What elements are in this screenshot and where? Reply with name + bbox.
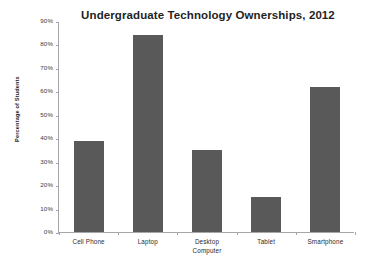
y-axis-tick-label: 90%	[40, 17, 53, 24]
y-axis-tick-label: 0%	[44, 228, 53, 235]
category-label-line: Cell Phone	[59, 238, 118, 247]
x-axis-category-label: Cell Phone	[59, 238, 118, 247]
x-axis-tick-mark	[296, 232, 297, 235]
y-axis-tick-label: 10%	[40, 205, 53, 212]
y-axis-tick-label: 80%	[40, 40, 53, 47]
y-axis-tick-label: 40%	[40, 134, 53, 141]
category-label-line: Desktop	[177, 238, 236, 247]
plot-area: 90%80%70%60%50%40%30%20%10%0% Cell Phone…	[58, 22, 354, 233]
bar[interactable]	[310, 87, 340, 232]
chart-title: Undergraduate Technology Ownerships, 201…	[58, 9, 358, 21]
x-axis-category-label: Laptop	[118, 238, 177, 247]
x-axis-tick-mark	[118, 232, 119, 235]
y-axis-tick-label: 60%	[40, 87, 53, 94]
bar-slot	[177, 22, 236, 232]
bar[interactable]	[192, 150, 222, 232]
bar-slot	[237, 22, 296, 232]
y-axis-tick-label: 50%	[40, 111, 53, 118]
bar-slot	[118, 22, 177, 232]
x-axis-category-label: Smartphone	[296, 238, 355, 247]
x-axis-category-label: Tablet	[237, 238, 296, 247]
x-axis-category-label: DesktopComputer	[177, 238, 236, 255]
y-axis-tick-label: 20%	[40, 181, 53, 188]
bar[interactable]	[133, 35, 163, 232]
y-axis-tick-label: 70%	[40, 64, 53, 71]
x-axis-tick-mark	[237, 232, 238, 235]
x-axis-tick-mark	[177, 232, 178, 235]
category-label-line: Computer	[177, 247, 236, 256]
category-label-line: Tablet	[237, 238, 296, 247]
bar-slot	[296, 22, 355, 232]
bars-layer	[59, 22, 354, 232]
category-label-line: Smartphone	[296, 238, 355, 247]
x-axis-tick-mark	[59, 232, 60, 235]
bar-chart-figure: Undergraduate Technology Ownerships, 201…	[0, 0, 367, 277]
y-axis-title: Percentage of Students	[14, 59, 20, 159]
bar-slot	[59, 22, 118, 232]
bar[interactable]	[74, 141, 104, 232]
y-axis-tick-label: 30%	[40, 158, 53, 165]
x-axis-tick-mark	[355, 232, 356, 235]
bar[interactable]	[251, 197, 281, 232]
category-label-line: Laptop	[118, 238, 177, 247]
